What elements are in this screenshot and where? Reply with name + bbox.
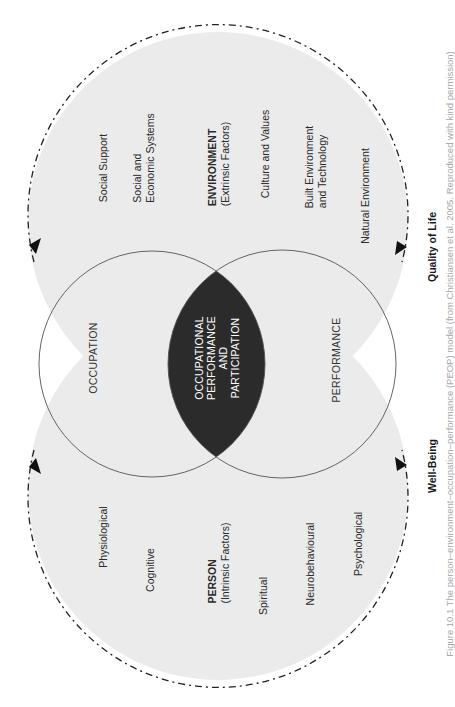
label-line: PARTICIPATION [229,316,241,400]
label-line: Cognitive [144,548,157,592]
env-factor-built: Built Environment and Technology [303,126,328,208]
label-line: PERFORMANCE [330,318,343,403]
label-line: OCCUPATIONAL [193,316,205,400]
person-title: PERSON [206,522,219,603]
label-line: Built Environment [303,126,316,208]
figure-caption: Figure 10.1 The person–environment–occup… [442,0,455,707]
label-line: OCCUPATION [87,322,100,393]
quality-of-life-label: Quality of Life [426,212,439,282]
label-line: and Technology [315,126,328,208]
person-factor-cognitive: Cognitive [144,548,157,592]
label-line: PERFORMANCE [205,316,217,400]
label-line: AND [217,316,229,400]
occupation-label: OCCUPATION [87,322,100,393]
label-line: Psychological [352,512,365,576]
env-factor-culture: Culture and Values [259,110,272,199]
label-line: Spiritual [257,577,270,615]
person-factor-physiological: Physiological [97,506,110,567]
person-heading: PERSON (Intrinsic Factors) [206,522,231,603]
env-factor-social-economic: Social and Economic Systems [131,113,156,202]
env-factor-natural: Natural Environment [359,148,372,244]
environment-subtitle: (Extrinsic Factors) [218,122,231,207]
label-line: Neurobehavioural [304,523,317,606]
well-being-label: Well-Being [426,439,439,493]
person-factor-spiritual: Spiritual [257,577,270,615]
center-label: OCCUPATIONAL PERFORMANCE AND PARTICIPATI… [193,316,241,400]
label-line: Culture and Values [259,110,272,199]
label-line: Natural Environment [359,148,372,244]
label-line: Social Support [97,134,110,202]
environment-heading: ENVIRONMENT (Extrinsic Factors) [206,122,231,207]
label-line: Quality of Life [426,212,439,282]
person-factor-psychological: Psychological [352,512,365,576]
environment-title: ENVIRONMENT [206,122,219,207]
label-line: Well-Being [426,439,439,493]
person-factor-neurobehavioural: Neurobehavioural [304,523,317,606]
label-line: Economic Systems [143,113,156,202]
person-subtitle: (Intrinsic Factors) [218,522,231,603]
env-factor-social-support: Social Support [97,134,110,202]
label-line: Physiological [97,506,110,567]
peop-diagram: Social Support Social and Economic Syste… [0,0,455,707]
performance-label: PERFORMANCE [330,318,343,403]
label-line: Social and [131,113,144,202]
caption-text: Figure 10.1 The person–environment–occup… [443,51,454,657]
